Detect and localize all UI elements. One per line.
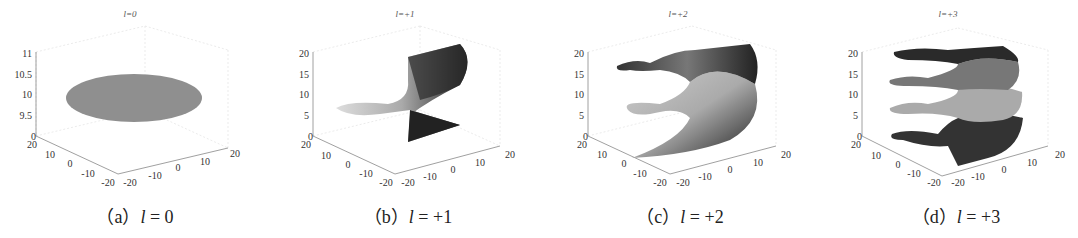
svg-text:-10: -10 (148, 170, 161, 181)
svg-text:-20: -20 (379, 177, 392, 188)
helix-surface-middle (890, 85, 1022, 122)
svg-text:10: 10 (848, 89, 858, 100)
panel-d: 20 15 10 5 0 20 10 0 -10 -20 -20 -10 0 1… (808, 0, 1078, 238)
svg-text:-10: -10 (633, 168, 646, 179)
caption-c: （c）l = +2 (580, 202, 780, 228)
svg-text:10: 10 (753, 157, 763, 168)
svg-text:10: 10 (22, 89, 32, 100)
svg-text:20: 20 (848, 48, 858, 59)
svg-text:20: 20 (574, 48, 584, 59)
svg-text:10: 10 (299, 89, 309, 100)
caption-b: （b）l = +1 (308, 202, 508, 228)
svg-text:-20: -20 (401, 177, 414, 188)
svg-text:11: 11 (22, 48, 32, 59)
svg-text:0: 0 (1002, 164, 1007, 175)
svg-text:20: 20 (505, 149, 515, 160)
svg-text:15: 15 (574, 69, 584, 80)
svg-text:0: 0 (622, 158, 627, 169)
svg-text:0: 0 (176, 162, 181, 173)
svg-text:0: 0 (728, 164, 733, 175)
svg-text:10: 10 (321, 150, 331, 161)
svg-text:-10: -10 (359, 168, 372, 179)
svg-text:0: 0 (896, 159, 901, 170)
svg-text:10: 10 (200, 156, 210, 167)
svg-text:10: 10 (1027, 157, 1037, 168)
disk-surface (66, 74, 202, 122)
caption-d: （d）l = +3 (856, 202, 1056, 228)
svg-text:10: 10 (871, 150, 881, 161)
caption-a: （a）l = 0 (35, 202, 235, 228)
svg-text:-10: -10 (971, 171, 984, 182)
svg-text:20: 20 (577, 139, 587, 150)
helix-surface-bottom (891, 113, 1023, 166)
svg-text:10: 10 (45, 149, 55, 160)
svg-text:-20: -20 (951, 177, 964, 188)
svg-text:10: 10 (475, 157, 485, 168)
panel-title: l=+3 (918, 9, 978, 19)
svg-text:10: 10 (574, 89, 584, 100)
svg-text:-20: -20 (653, 177, 666, 188)
svg-text:-10: -10 (698, 171, 711, 182)
svg-text:20: 20 (781, 149, 791, 160)
svg-text:-10: -10 (907, 168, 920, 179)
panel-b: 20 15 10 5 0 20 10 0 -10 -20 -20 -10 0 1… (270, 0, 540, 238)
helix-surface-lower (627, 71, 758, 158)
svg-text:9.5: 9.5 (20, 110, 33, 121)
svg-text:15: 15 (299, 69, 309, 80)
svg-text:10.5: 10.5 (15, 69, 33, 80)
svg-text:-20: -20 (123, 177, 136, 188)
svg-text:20: 20 (301, 139, 311, 150)
svg-text:5: 5 (853, 110, 858, 121)
svg-text:-10: -10 (423, 171, 436, 182)
panel-title: l=0 (100, 9, 160, 19)
svg-text:5: 5 (579, 110, 584, 121)
svg-text:-20: -20 (676, 177, 689, 188)
svg-text:20: 20 (1055, 149, 1065, 160)
panel-c: 20 15 10 5 0 20 10 0 -10 -20 -20 -10 0 1… (540, 0, 810, 238)
svg-text:10: 10 (597, 149, 607, 160)
svg-text:-20: -20 (927, 177, 940, 188)
svg-text:0: 0 (68, 158, 73, 169)
svg-text:-20: -20 (101, 177, 114, 188)
svg-text:-10: -10 (81, 168, 94, 179)
svg-text:20: 20 (851, 139, 861, 150)
svg-text:5: 5 (304, 110, 309, 121)
svg-text:20: 20 (299, 48, 309, 59)
svg-text:20: 20 (230, 148, 240, 159)
panel-title: l=+1 (375, 9, 435, 19)
svg-text:15: 15 (848, 69, 858, 80)
svg-text:0: 0 (346, 159, 351, 170)
svg-text:20: 20 (27, 139, 37, 150)
panel-a: 11 10.5 10 9.5 0 20 10 0 -10 -20 -20 -10… (0, 0, 270, 238)
panel-title: l=+2 (648, 9, 708, 19)
svg-text:0: 0 (451, 164, 456, 175)
